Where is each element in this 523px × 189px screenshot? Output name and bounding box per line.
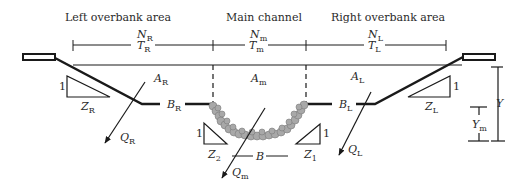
compound-channel-diagram: Left overbank area Main channel Right ov…	[0, 0, 523, 189]
a-main-label: Am	[250, 72, 267, 87]
flow-arrow-left: QR	[105, 82, 145, 146]
svg-text:ZL: ZL	[424, 100, 439, 115]
svg-text:Ym: Ym	[472, 118, 487, 133]
svg-text:AR: AR	[153, 72, 169, 87]
right-overbank-title: Right overbank area	[331, 11, 446, 24]
b-left-label: BR	[166, 98, 182, 113]
slope-triangle-main-left: 1 Z2	[196, 123, 227, 163]
svg-text:BL: BL	[338, 98, 353, 113]
svg-text:Qm: Qm	[232, 166, 249, 181]
svg-text:Am: Am	[250, 72, 267, 87]
y-total-label: Y	[496, 97, 505, 110]
a-left-label: AR	[153, 72, 169, 87]
svg-text:1: 1	[323, 127, 330, 140]
slope-triangle-main-right: 1 Z1	[296, 124, 330, 163]
svg-text:1: 1	[196, 127, 203, 140]
svg-text:Z2: Z2	[207, 148, 221, 163]
svg-text:1: 1	[453, 80, 460, 93]
right-levee-cap	[463, 54, 495, 60]
svg-text:BR: BR	[166, 98, 182, 113]
b-right-label: BL	[338, 98, 353, 113]
main-channel-title: Main channel	[226, 11, 302, 24]
svg-text:QL: QL	[348, 143, 363, 158]
svg-text:AL: AL	[350, 70, 365, 85]
main-channel-stone-bed	[209, 101, 308, 140]
svg-text:ZR: ZR	[80, 100, 96, 115]
y-main-label: Ym	[472, 118, 487, 133]
svg-text:QR: QR	[120, 131, 136, 146]
a-right-label: AL	[350, 70, 365, 85]
left-overbank-title: Left overbank area	[65, 11, 172, 24]
left-levee-cap	[23, 54, 55, 60]
b-main-label: B	[255, 150, 264, 163]
svg-text:1: 1	[59, 80, 66, 93]
svg-text:Z1: Z1	[303, 148, 317, 163]
